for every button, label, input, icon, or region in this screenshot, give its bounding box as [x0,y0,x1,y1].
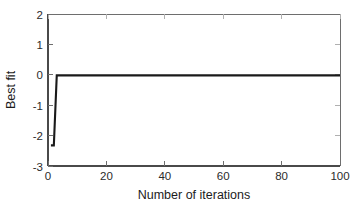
y-tick-marks [48,14,53,166]
y-tick-label-neg3: -3 [33,161,43,173]
x-tick-label-80: 80 [275,170,288,182]
y-tick-label-neg1: -1 [33,100,43,112]
data-series-best-fit [51,75,340,145]
best-fit-line [51,75,340,145]
x-tick-marks [48,161,340,166]
y-tick-label-2: 2 [37,9,43,21]
figure-container: 0 20 40 60 80 100 2 1 0 -1 -2 -3 Number … [0,0,361,206]
x-tick-labels: 0 20 40 60 80 100 [45,170,350,182]
y-tick-marks-right [335,44,340,135]
x-tick-label-0: 0 [45,170,51,182]
y-tick-labels: 2 1 0 -1 -2 -3 [33,9,43,173]
x-axis-title: Number of iterations [138,188,251,202]
y-tick-label-neg2: -2 [33,130,43,142]
x-tick-label-40: 40 [158,170,171,182]
y-tick-label-0: 0 [37,69,43,81]
x-tick-label-100: 100 [330,170,349,182]
chart-canvas: 0 20 40 60 80 100 2 1 0 -1 -2 -3 Number … [0,0,361,206]
y-tick-label-1: 1 [37,39,43,51]
y-axis-title: Best fit [4,70,18,109]
axes-frame [48,14,340,166]
x-tick-marks-top [48,14,340,19]
x-tick-label-60: 60 [217,170,230,182]
x-tick-label-20: 20 [100,170,113,182]
